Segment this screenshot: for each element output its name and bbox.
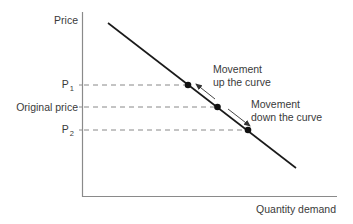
price-label-p1-main: P: [62, 78, 69, 90]
price-label-original: Original price: [16, 101, 78, 113]
annotation-up-line1: Movement: [213, 63, 271, 76]
annotation-up-line2: up the curve: [213, 76, 271, 89]
demand-curve-diagram: Price Quantity demand P1 Original price …: [0, 0, 353, 224]
point-p1: [185, 82, 192, 89]
annotation-movement-up: Movement up the curve: [213, 63, 271, 88]
price-label-p2-subscript: 2: [70, 129, 74, 138]
y-axis-label: Price: [54, 14, 78, 26]
price-label-p1-subscript: 1: [70, 84, 74, 93]
price-label-original-text: Original price: [16, 101, 78, 113]
point-original-price: [214, 104, 221, 111]
annotation-movement-down: Movement down the curve: [251, 98, 322, 123]
annotation-down-line1: Movement: [251, 98, 322, 111]
x-axis-label: Quantity demand: [256, 203, 336, 215]
price-label-p1: P1: [62, 78, 74, 92]
point-p2: [245, 127, 252, 134]
price-label-p2-main: P: [62, 123, 69, 135]
annotation-down-line2: down the curve: [251, 111, 322, 124]
demand-curve: [108, 23, 296, 168]
price-label-p2: P2: [62, 123, 74, 137]
